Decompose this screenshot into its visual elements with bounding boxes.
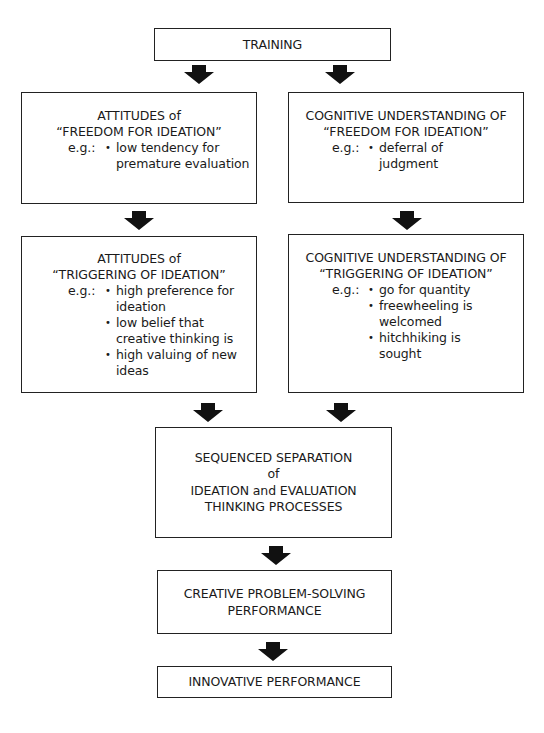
example-item: go for quantity xyxy=(368,282,523,298)
node-title-line: INNOVATIVE PERFORMANCE xyxy=(188,674,360,690)
node-title-line: SEQUENCED SEPARATION xyxy=(195,450,353,467)
example-item: low belief that creative thinking is xyxy=(105,315,256,347)
eg-label: e.g.: xyxy=(332,282,359,298)
arrow-down-icon xyxy=(326,403,356,422)
example-item: high preference for ideation xyxy=(105,283,256,315)
node-creative-performance: CREATIVE PROBLEM-SOLVING PERFORMANCE xyxy=(157,570,392,634)
node-title-line: ATTITUDES of xyxy=(22,251,256,267)
node-title-line: PERFORMANCE xyxy=(227,602,321,619)
node-title-line: CREATIVE PROBLEM-SOLVING xyxy=(184,585,366,602)
eg-label: e.g.: xyxy=(68,283,95,299)
node-title-line: “TRIGGERING OF IDEATION” xyxy=(22,267,256,283)
arrow-down-icon xyxy=(392,211,422,230)
arrow-down-icon xyxy=(258,642,288,661)
arrow-down-icon xyxy=(325,65,355,84)
node-title-line: COGNITIVE UNDERSTANDING OF xyxy=(289,108,523,124)
eg-label: e.g.: xyxy=(68,140,95,156)
node-title-line: “TRIGGERING OF IDEATION” xyxy=(289,266,523,282)
node-title-line: “FREEDOM FOR IDEATION” xyxy=(22,124,256,140)
node-title-line: “FREEDOM FOR IDEATION” xyxy=(289,124,523,140)
node-training-label: TRAINING xyxy=(243,37,302,53)
node-cognitive-freedom: COGNITIVE UNDERSTANDING OF “FREEDOM FOR … xyxy=(288,92,524,203)
node-attitudes-freedom: ATTITUDES of “FREEDOM FOR IDEATION” e.g.… xyxy=(21,92,257,204)
node-title-line: COGNITIVE UNDERSTANDING OF xyxy=(289,250,523,266)
node-title-line: THINKING PROCESSES xyxy=(205,499,343,516)
node-training: TRAINING xyxy=(154,28,391,61)
node-sequenced-separation: SEQUENCED SEPARATION of IDEATION and EVA… xyxy=(155,427,392,538)
node-cognitive-triggering: COGNITIVE UNDERSTANDING OF “TRIGGERING O… xyxy=(288,234,524,393)
eg-label: e.g.: xyxy=(332,140,359,156)
arrow-down-icon xyxy=(261,546,291,565)
arrow-down-icon xyxy=(184,65,214,84)
example-item: high valuing of new ideas xyxy=(105,347,256,379)
node-title-line: of xyxy=(268,466,280,483)
node-title-line: ATTITUDES of xyxy=(22,108,256,124)
example-item: deferral of judgment xyxy=(368,140,523,172)
example-item: freewheeling is welcomed xyxy=(368,298,523,330)
node-attitudes-triggering: ATTITUDES of “TRIGGERING OF IDEATION” e.… xyxy=(21,236,257,393)
arrow-down-icon xyxy=(124,211,154,230)
example-item: low tendency for premature evaluation xyxy=(105,140,256,172)
example-item: hitchhiking is sought xyxy=(368,330,523,362)
node-title-line: IDEATION and EVALUATION xyxy=(190,483,356,500)
node-innovative-performance: INNOVATIVE PERFORMANCE xyxy=(157,666,392,698)
arrow-down-icon xyxy=(193,403,223,422)
